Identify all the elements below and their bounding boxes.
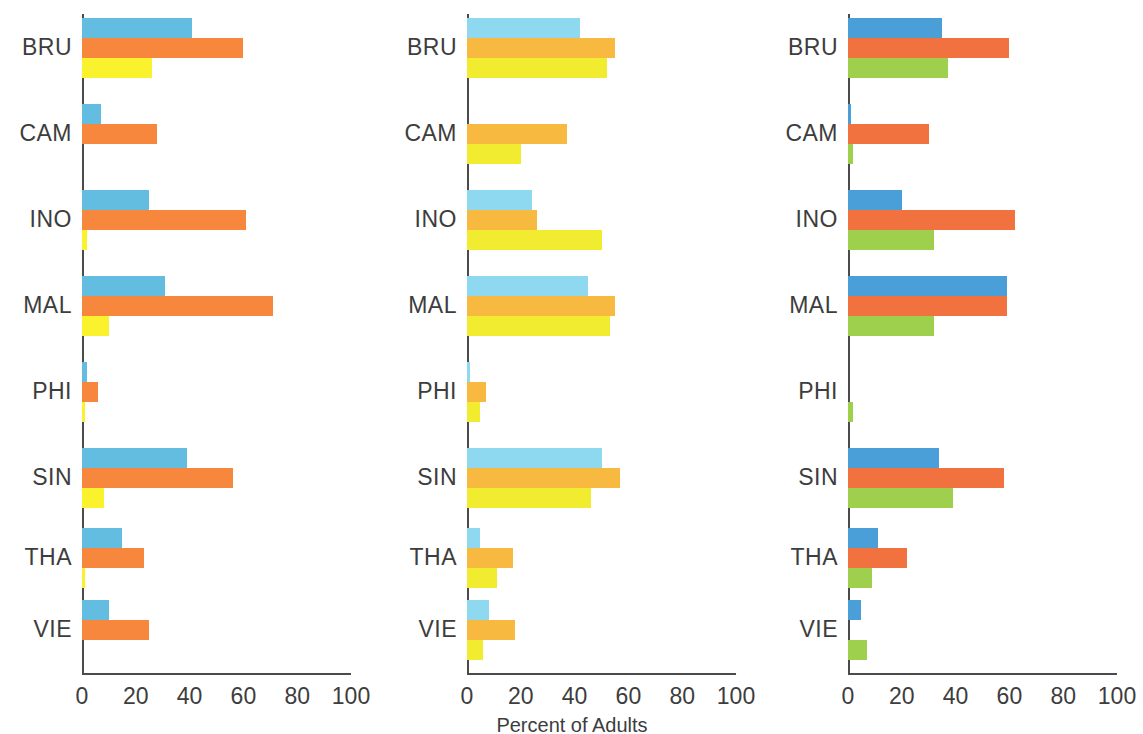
x-tick-80: 80 <box>267 683 327 710</box>
bar-sin-series-3 <box>848 488 953 508</box>
x-tick-0: 0 <box>818 683 878 710</box>
bar-tha-series-2 <box>848 548 907 568</box>
x-tick-60: 60 <box>213 683 273 710</box>
category-label-phi: PHI <box>798 378 838 405</box>
x-tick-80: 80 <box>1033 683 1093 710</box>
bar-bru-series-3 <box>848 58 948 78</box>
x-tick-60: 60 <box>979 683 1039 710</box>
category-label-sin: SIN <box>798 464 838 491</box>
x-tick-40: 40 <box>160 683 220 710</box>
category-label-bru: BRU <box>788 34 838 61</box>
x-axis-ticks-2: 020406080100 <box>467 683 736 713</box>
bar-bru-series-2 <box>848 38 1009 58</box>
x-tick-20: 20 <box>872 683 932 710</box>
x-axis-ticks-1: 020406080100 <box>82 683 351 713</box>
x-tick-0: 0 <box>52 683 112 710</box>
plot-area-3 <box>848 14 1117 673</box>
bar-tha-series-1 <box>848 528 878 548</box>
chart-figure: BRUCAMINOMALPHISINTHAVIE020406080100BRUC… <box>0 0 1143 734</box>
category-label-cam: CAM <box>785 120 838 147</box>
category-label-tha: THA <box>791 544 839 571</box>
bar-ino-series-1 <box>848 190 902 210</box>
bar-cam-series-1 <box>848 104 851 124</box>
category-axis-3: BRUCAMINOMALPHISINTHAVIE <box>0 0 838 680</box>
bar-ino-series-2 <box>848 210 1015 230</box>
x-tick-60: 60 <box>598 683 658 710</box>
x-tick-40: 40 <box>926 683 986 710</box>
bar-mal-series-1 <box>848 276 1007 296</box>
x-tick-100: 100 <box>321 683 381 710</box>
category-label-mal: MAL <box>789 292 838 319</box>
category-label-vie: VIE <box>799 616 838 643</box>
bar-vie-series-1 <box>848 600 861 620</box>
bar-cam-series-2 <box>848 124 929 144</box>
bar-cam-series-3 <box>848 144 853 164</box>
x-tick-0: 0 <box>437 683 497 710</box>
x-axis-label: Percent of Adults <box>422 714 722 734</box>
x-tick-40: 40 <box>545 683 605 710</box>
bar-mal-series-3 <box>848 316 934 336</box>
bar-ino-series-3 <box>848 230 934 250</box>
bar-bru-series-1 <box>848 18 942 38</box>
x-axis-ticks-3: 020406080100 <box>848 683 1117 713</box>
x-tick-20: 20 <box>106 683 166 710</box>
bar-sin-series-2 <box>848 468 1004 488</box>
bar-mal-series-2 <box>848 296 1007 316</box>
x-tick-100: 100 <box>1087 683 1143 710</box>
x-tick-20: 20 <box>491 683 551 710</box>
bar-sin-series-1 <box>848 448 939 468</box>
bar-tha-series-3 <box>848 568 872 588</box>
x-tick-100: 100 <box>706 683 766 710</box>
category-label-ino: INO <box>796 206 838 233</box>
x-tick-80: 80 <box>652 683 712 710</box>
x-axis-line <box>848 673 1117 675</box>
bar-phi-series-3 <box>848 402 853 422</box>
bar-vie-series-3 <box>848 640 867 660</box>
